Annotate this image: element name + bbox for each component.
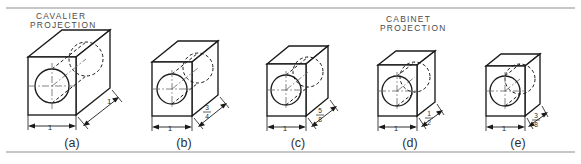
figure-b-width-label: 1	[168, 124, 173, 133]
figure-d-depth-numerator: 1	[427, 110, 431, 117]
figure-c-width-label: 1	[283, 124, 288, 133]
figure-e-depth-numerator: 3	[534, 112, 538, 119]
figure-c-depth-denominator: 8	[318, 116, 322, 123]
cavalier-label-line2: PROJECTION	[30, 20, 96, 30]
oblique-projection-figure-svg: CAVALIER PROJECTION 1	[0, 0, 581, 164]
figure-e-width-label: 1	[502, 124, 507, 133]
cabinet-label-line2: PROJECTION	[380, 23, 446, 33]
figure-e-depth-denominator: 8	[534, 121, 538, 128]
figure-e-caption: (e)	[510, 136, 525, 150]
figure-d-depth-denominator: 2	[427, 119, 431, 126]
figure-b-caption: (b)	[176, 136, 191, 150]
figure-b-depth-numerator: 3	[205, 104, 209, 111]
figure-a-width-label: 1	[48, 123, 53, 132]
figure-plate: CAVALIER PROJECTION 1	[0, 0, 581, 164]
figure-a-caption: (a)	[64, 136, 79, 150]
figure-d-width-label: 1	[394, 124, 399, 133]
figure-b-depth-denominator: 4	[205, 113, 209, 120]
figure-c-depth-numerator: 5	[318, 107, 322, 114]
figure-c-caption: (c)	[291, 136, 306, 150]
figure-d-caption: (d)	[402, 136, 417, 150]
figure-a-depth-label: 1	[107, 97, 112, 106]
